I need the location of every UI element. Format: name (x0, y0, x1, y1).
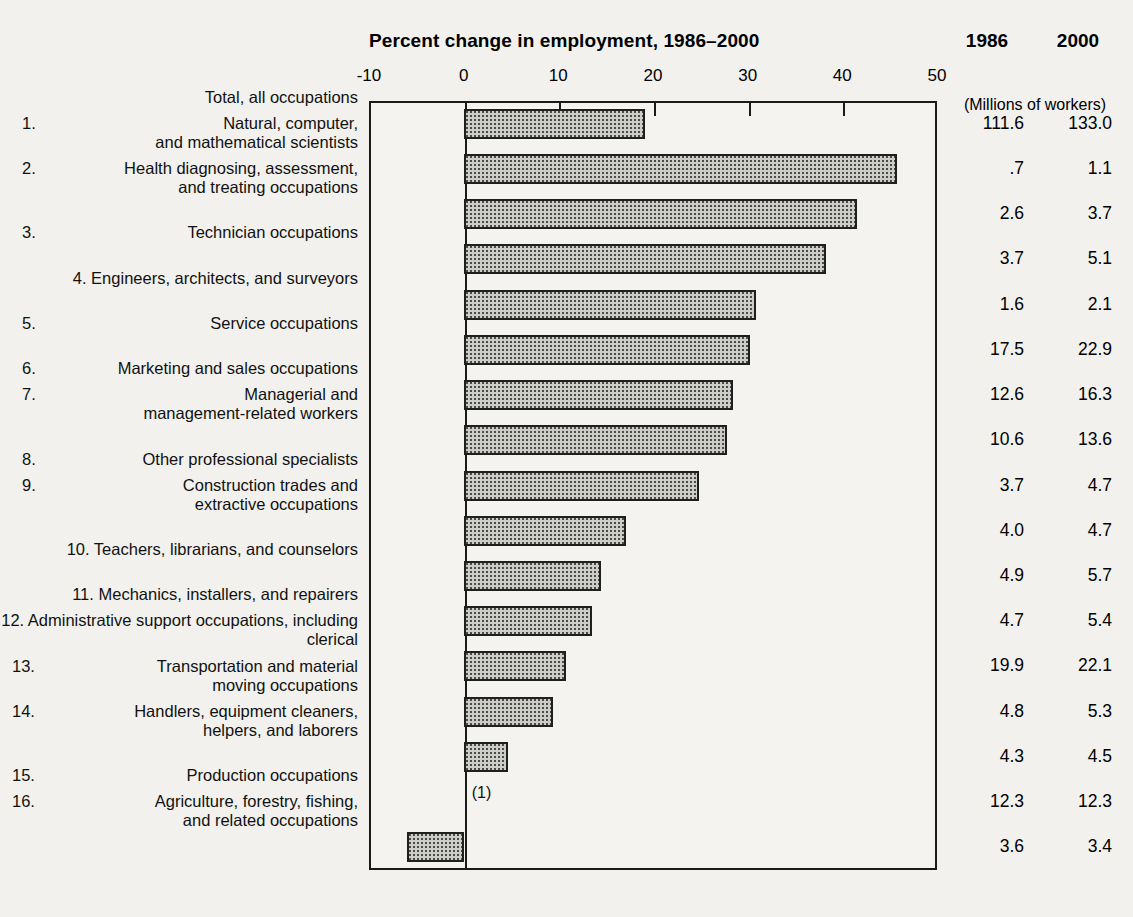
bar-row-11 (464, 606, 593, 636)
bar-row-12 (464, 651, 566, 681)
row-number-16: 16. (12, 792, 58, 811)
x-tick-label-10: 10 (549, 66, 568, 86)
bar-row-8 (464, 471, 700, 501)
units-note: (Millions of workers) (942, 96, 1128, 114)
row-label-10: 10. Teachers, librarians, and counselors (0, 540, 358, 559)
value-2000-row-12: 22.1 (1040, 655, 1112, 676)
bar-row-10 (464, 561, 601, 591)
value-2000-row-4: 2.1 (1040, 294, 1112, 315)
x-tick-label-20: 20 (644, 66, 663, 86)
row-number-9: 9. (22, 476, 68, 495)
value-1986-row-13: 4.8 (950, 701, 1024, 722)
row-number-5: 5. (22, 314, 68, 333)
value-1986-row-6: 12.6 (950, 384, 1024, 405)
axis-tick-mark-20 (654, 103, 656, 116)
value-2000-row-5: 22.9 (1040, 339, 1112, 360)
row-number-8: 8. (22, 450, 68, 469)
row-label-line: helpers, and laborers (0, 721, 358, 740)
value-2000-row-6: 16.3 (1040, 384, 1112, 405)
row-number-14: 14. (12, 702, 58, 721)
row-label-line: moving occupations (0, 676, 358, 695)
row-label-line: and mathematical scientists (0, 133, 358, 152)
value-2000-row-14: 4.5 (1040, 746, 1112, 767)
x-tick-label-50: 50 (928, 66, 947, 86)
bar-row-1 (464, 154, 898, 184)
row-number-15: 15. (12, 766, 58, 785)
value-2000-row-9: 4.7 (1040, 520, 1112, 541)
row-label-line: and related occupations (0, 811, 358, 830)
row-label-4: 4. Engineers, architects, and surveyors (0, 269, 358, 288)
chart-title: Percent change in employment, 1986–2000 (369, 30, 759, 52)
column-header-2000: 2000 (1038, 30, 1118, 52)
value-1986-row-14: 4.3 (950, 746, 1024, 767)
x-tick-label-0: 0 (459, 66, 468, 86)
value-1986-row-10: 4.9 (950, 565, 1024, 586)
value-1986-row-3: 3.7 (950, 248, 1024, 269)
row-label-line: and treating occupations (0, 178, 358, 197)
row-label-11: 11. Mechanics, installers, and repairers (0, 585, 358, 604)
bar-row-16 (407, 832, 464, 862)
row-number-3: 3. (22, 223, 68, 242)
row-number-7: 7. (22, 385, 68, 404)
axis-tick-mark-30 (749, 103, 751, 116)
value-1986-row-11: 4.7 (950, 610, 1024, 631)
value-2000-row-7: 13.6 (1040, 429, 1112, 450)
value-1986-row-0: 111.6 (950, 113, 1024, 134)
value-1986-row-7: 10.6 (950, 429, 1024, 450)
row-number-2: 2. (22, 159, 68, 178)
bar-row-7 (464, 425, 727, 455)
row-number-6: 6. (22, 359, 68, 378)
value-1986-row-5: 17.5 (950, 339, 1024, 360)
bar-row-14 (464, 742, 508, 772)
row-number-13: 13. (12, 657, 58, 676)
value-2000-row-2: 3.7 (1040, 203, 1112, 224)
value-1986-row-8: 3.7 (950, 475, 1024, 496)
x-tick-label-40: 40 (833, 66, 852, 86)
axis-tick-mark-40 (843, 103, 845, 116)
column-header-1986: 1986 (950, 30, 1024, 52)
bar-row-9 (464, 516, 626, 546)
x-tick-label-neg10: -10 (357, 66, 382, 86)
row-label-line: management-related workers (0, 404, 358, 423)
x-tick-label-30: 30 (738, 66, 757, 86)
value-2000-row-11: 5.4 (1040, 610, 1112, 631)
value-1986-row-2: 2.6 (950, 203, 1024, 224)
value-2000-row-8: 4.7 (1040, 475, 1112, 496)
employment-change-chart: Percent change in employment, 1986–2000 … (0, 0, 1133, 917)
bar-row-5 (464, 335, 750, 365)
value-2000-row-3: 5.1 (1040, 248, 1112, 269)
value-2000-row-15: 12.3 (1040, 791, 1112, 812)
row-label-line: extractive occupations (0, 495, 358, 514)
row-label-line: Total, all occupations (0, 88, 358, 107)
value-2000-row-10: 5.7 (1040, 565, 1112, 586)
row-label-12: 12. Administrative support occupations, … (0, 611, 358, 649)
x-axis-tick-labels: -1001020304050 (0, 66, 1133, 88)
bar-row-4 (464, 290, 757, 320)
value-2000-row-1: 1.1 (1040, 158, 1112, 179)
bar-row-2 (464, 199, 858, 229)
value-2000-row-0: 133.0 (1040, 113, 1112, 134)
value-2000-row-13: 5.3 (1040, 701, 1112, 722)
bar-row-3 (464, 244, 827, 274)
row-number-1: 1. (22, 114, 68, 133)
value-1986-row-12: 19.9 (950, 655, 1024, 676)
row-label-0: Total, all occupations (0, 88, 358, 107)
value-1986-row-15: 12.3 (950, 791, 1024, 812)
footnote-marker-row-15: (1) (472, 784, 492, 802)
bar-row-13 (464, 697, 553, 727)
bar-row-6 (464, 380, 734, 410)
value-1986-row-16: 3.6 (950, 836, 1024, 857)
value-1986-row-9: 4.0 (950, 520, 1024, 541)
value-1986-row-4: 1.6 (950, 294, 1024, 315)
bar-row-0 (464, 109, 646, 139)
value-1986-row-1: .7 (950, 158, 1024, 179)
value-2000-row-16: 3.4 (1040, 836, 1112, 857)
